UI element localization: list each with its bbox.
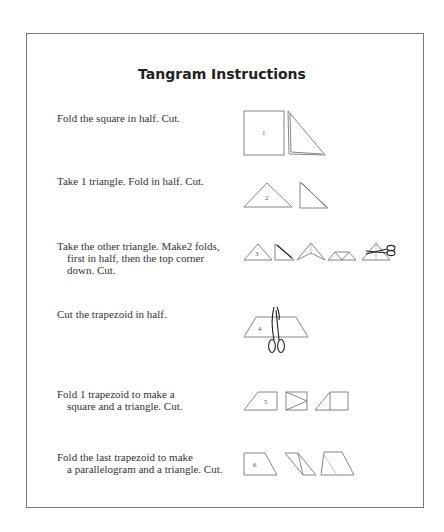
- piece-label-1: 1: [262, 129, 266, 137]
- step-3-diagram: 3: [244, 243, 395, 260]
- step-5-diagram: 5: [244, 392, 348, 410]
- trapezoid-corner-folded: [328, 252, 356, 260]
- scissors-icon: [269, 307, 285, 353]
- piece-label-5: 5: [264, 398, 268, 406]
- fold-line: [324, 455, 337, 475]
- step-4-diagram: 4: [244, 307, 308, 353]
- step-1-diagram: 1: [244, 111, 325, 155]
- piece-label-6: 6: [253, 461, 257, 469]
- trapezoid-shape: [244, 453, 277, 475]
- diagrams-layer: 1 2 3 4: [0, 0, 444, 532]
- trapezoid-folded-shape: [321, 452, 354, 475]
- corner-fold-lines: [335, 252, 349, 260]
- trapezoid-shape: [244, 317, 308, 337]
- fold-edge: [290, 114, 322, 154]
- triangle-fold-lines: [286, 392, 307, 410]
- fold-edge: [302, 183, 326, 207]
- trapezoid-shape: [244, 392, 277, 410]
- step-2-diagram: 2: [244, 182, 328, 208]
- piece-label-4: 4: [258, 325, 262, 333]
- fold-edge: [277, 245, 292, 258]
- triangle-and-square-shape: [315, 392, 348, 410]
- piece-label-2: 2: [265, 194, 269, 202]
- square-shape: [286, 392, 307, 410]
- folded-triangle-shape: [288, 111, 325, 155]
- step-6-diagram: 6: [244, 452, 354, 475]
- piece-label-3: 3: [255, 250, 259, 258]
